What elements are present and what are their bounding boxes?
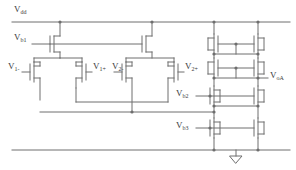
- label-v2-plus: V2+: [185, 62, 198, 71]
- gnd-left-dot: [212, 148, 215, 151]
- label-vb1: Vb1: [14, 33, 27, 42]
- bus-junction-dot: [130, 110, 133, 113]
- schematic-drawing: [0, 0, 296, 170]
- mirror-left-vdd-dot: [212, 20, 215, 23]
- tail2-vdd-dot: [150, 20, 153, 23]
- ground-icon: [230, 156, 242, 163]
- label-v1-plus: V1+: [93, 62, 106, 71]
- vb2-gate-dot: [208, 94, 211, 97]
- vb3-gate-dot: [208, 126, 211, 129]
- mir1-gate-dot: [234, 42, 237, 45]
- tail1-vdd-dot: [58, 20, 61, 23]
- mirror-right-vdd-dot: [256, 20, 259, 23]
- circuit-schematic: Vdd Vb1 V1- V1+ V2- V2+ VoA Vb2 Vb3: [0, 0, 296, 170]
- label-vb3: Vb3: [176, 121, 189, 130]
- label-v2-minus: V2-: [112, 62, 124, 71]
- label-vdd: Vdd: [14, 5, 27, 14]
- mir2-gate-dot: [234, 66, 237, 69]
- label-vb2: Vb2: [176, 89, 189, 98]
- label-voa: VoA: [270, 71, 284, 80]
- label-v1-minus: V1-: [8, 62, 20, 71]
- gnd-right-dot: [256, 148, 259, 151]
